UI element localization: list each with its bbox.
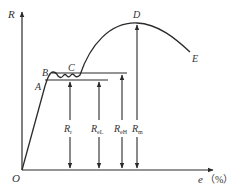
stress-strain-curve: [45, 23, 190, 86]
label-rr: Rr: [63, 123, 72, 135]
origin-label: O: [12, 172, 20, 184]
point-c-label: C: [68, 62, 75, 73]
label-reh: ReH: [113, 123, 128, 135]
stress-strain-diagram: R O e （%） A B C D E Rr ReL ReH Rm: [0, 0, 233, 191]
point-a-label: A: [34, 81, 42, 92]
y-axis-label: R: [7, 8, 15, 20]
label-rel: ReL: [90, 123, 104, 135]
point-e-label: E: [191, 53, 198, 64]
x-axis-label: e: [198, 173, 203, 185]
point-d-label: D: [132, 9, 141, 20]
label-rm: Rm: [131, 123, 143, 135]
point-b-label: B: [42, 67, 48, 78]
elastic-segment: [22, 86, 45, 170]
x-axis-unit: （%）: [205, 174, 233, 185]
